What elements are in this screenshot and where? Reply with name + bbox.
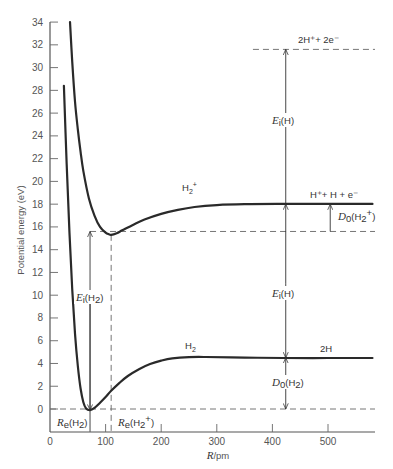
y-tick-label: 12 [32,267,44,278]
curve-h2plus [70,22,372,235]
svg-text:Ei(H): Ei(H) [271,114,294,128]
x-tick-label: 500 [320,436,337,447]
y-tick-label: 2 [37,381,43,392]
y-tick-label: 0 [37,404,43,415]
label-ei-h-upper: Ei(H) [270,113,300,128]
y-tick-label: 10 [32,290,44,301]
label-re-h2: Re(H2) [56,416,88,430]
y-tick-label: 20 [32,176,44,187]
reference-lines [50,49,375,432]
y-tick-label: 34 [32,17,44,28]
y-tick-label: 22 [32,153,44,164]
x-tick-label: 400 [264,436,281,447]
x-tick-label: 300 [208,436,225,447]
y-tick-label: 16 [32,221,44,232]
x-tick-label: 200 [153,436,170,447]
label-re-h2plus: Re(H2+) [117,413,154,430]
y-axis-title: Potential energy (eV) [15,185,26,274]
y-tick-label: 24 [32,130,44,141]
y-tick-label: 32 [32,39,44,50]
label-h2plus-curve: H2+ [182,181,197,195]
label-ei-h2: Ei(H2) [74,290,108,305]
curve-h2 [64,86,373,410]
y-tick-label: 18 [32,199,44,210]
y-tick-label: 14 [32,244,44,255]
potential-energy-chart: 0246810121416182022242628303234010020030… [0,0,393,469]
x-axis-title: R/pm [206,449,230,461]
svg-text:Ei(H2): Ei(H2) [75,291,103,305]
label-h2-curve: H2 [185,340,196,353]
y-tick-label: 30 [32,62,44,73]
y-tick-label: 28 [32,85,44,96]
y-tick-label: 26 [32,108,44,119]
label-d0-h2: D0(H2) [270,375,304,390]
svg-text:Ei(H): Ei(H) [271,287,294,301]
y-tick-label: 4 [37,358,43,369]
arrows [90,49,330,431]
x-tick-label: 0 [47,436,53,447]
label-hplus-h-e: H⁺+ H + e⁻ [310,189,358,200]
label-2hplus-2e: 2H⁺+ 2e⁻ [298,34,339,45]
x-tick-label: 100 [97,436,114,447]
y-tick-label: 6 [37,335,43,346]
label-d0-h2plus: D0(H2+) [337,207,375,224]
label-2h: 2H [320,343,332,354]
y-tick-label: 8 [37,312,43,323]
svg-text:D0(H2): D0(H2) [271,376,304,390]
label-ei-h-lower: Ei(H) [270,286,300,301]
